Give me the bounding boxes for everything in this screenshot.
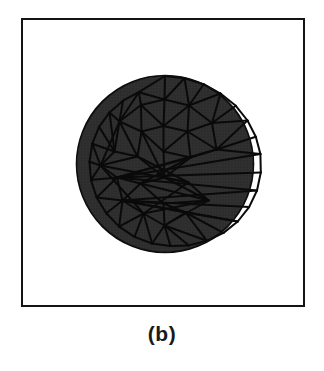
mesh-edge — [165, 76, 166, 100]
mesh-edge — [164, 100, 165, 127]
triangular-mesh-diagram — [23, 20, 307, 309]
figure-caption: (b) — [0, 322, 324, 346]
mesh-edge — [141, 105, 142, 132]
mesh-edge — [257, 173, 261, 191]
mesh-group — [77, 76, 261, 253]
plot-frame — [21, 18, 305, 307]
mesh-edge — [256, 137, 261, 154]
figure-panel-b: (b) — [0, 0, 324, 371]
mesh-edge — [171, 245, 189, 246]
mesh-edge — [249, 191, 257, 208]
mesh-edge — [164, 204, 165, 226]
